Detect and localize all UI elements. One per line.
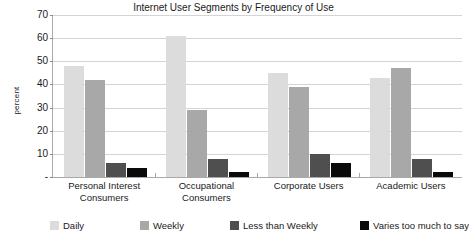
y-axis-tick-labels: 70605040302010-: [22, 8, 48, 184]
legend-swatch-icon: [230, 221, 239, 230]
y-axis-tick-label: 70: [22, 10, 48, 20]
legend-swatch-icon: [50, 221, 59, 230]
x-axis-label-line: Personal Interest: [53, 180, 155, 192]
bar: [166, 36, 186, 177]
plot-area: [52, 15, 462, 178]
axis-tick-mark: [50, 108, 53, 109]
x-axis-label-line: Consumers: [155, 192, 257, 204]
x-axis-label: OccupationalConsumers: [155, 180, 257, 203]
bar-group: [258, 15, 360, 177]
bar: [187, 110, 207, 177]
x-axis-label-line: Occupational: [155, 180, 257, 192]
bar: [229, 172, 249, 177]
bar-groups: [54, 15, 462, 177]
bar: [370, 78, 390, 178]
y-axis-tick-label: 10: [22, 149, 48, 159]
bar: [208, 159, 228, 178]
bar: [85, 80, 105, 177]
y-axis-tick-label: -: [22, 172, 48, 182]
axis-tick-mark: [50, 131, 53, 132]
y-axis-tick-label: 40: [22, 79, 48, 89]
y-axis-tick-label: 60: [22, 33, 48, 43]
x-axis-label-line: Consumers: [53, 192, 155, 204]
x-axis-label-line: Academic Users: [360, 180, 462, 192]
chart-legend: DailyWeeklyLess than WeeklyVaries too mu…: [50, 220, 460, 231]
y-axis-tick-label: 50: [22, 56, 48, 66]
bar: [331, 163, 351, 177]
legend-swatch-icon: [360, 221, 369, 230]
legend-item[interactable]: Varies too much to say: [360, 220, 460, 231]
y-axis-tick-label: 30: [22, 103, 48, 113]
y-axis-title: percent: [12, 71, 21, 131]
axis-tick-mark: [50, 154, 53, 155]
legend-label: Less than Weekly: [243, 220, 318, 231]
bar: [64, 66, 84, 177]
legend-item[interactable]: Less than Weekly: [230, 220, 360, 231]
legend-item[interactable]: Weekly: [140, 220, 230, 231]
axis-tick-mark: [50, 84, 53, 85]
bar-group: [156, 15, 258, 177]
legend-swatch-icon: [140, 221, 149, 230]
axis-tick-mark: [50, 38, 53, 39]
axis-tick-mark: [50, 177, 53, 178]
bar-group: [54, 15, 156, 177]
chart-title: Internet User Segments by Frequency of U…: [0, 2, 467, 13]
bar: [310, 154, 330, 177]
x-axis-category-labels: Personal InterestConsumersOccupationalCo…: [53, 180, 462, 203]
legend-label: Weekly: [153, 220, 184, 231]
legend-item[interactable]: Daily: [50, 220, 140, 231]
axis-tick-mark: [50, 15, 53, 16]
x-axis-label-line: Corporate Users: [258, 180, 360, 192]
bar: [289, 87, 309, 177]
bar: [268, 73, 288, 177]
legend-label: Varies too much to say: [373, 220, 469, 231]
bar: [433, 172, 453, 177]
x-axis-label: Personal InterestConsumers: [53, 180, 155, 203]
y-axis-tick-label: 20: [22, 126, 48, 136]
x-axis-label: Corporate Users: [258, 180, 360, 203]
x-axis-label: Academic Users: [360, 180, 462, 203]
axis-tick-mark: [50, 61, 53, 62]
bar-group: [360, 15, 462, 177]
bar: [127, 168, 147, 177]
legend-label: Daily: [63, 220, 84, 231]
bar: [391, 68, 411, 177]
bar: [412, 159, 432, 178]
bar: [106, 163, 126, 177]
